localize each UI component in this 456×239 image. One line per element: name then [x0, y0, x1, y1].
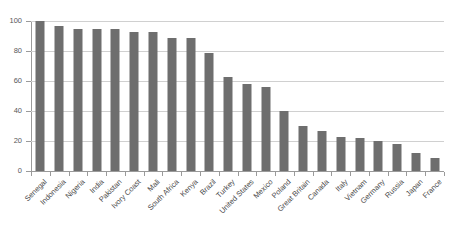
bar — [280, 111, 289, 171]
y-axis-tick-label: 100 — [9, 17, 22, 25]
x-tick — [331, 172, 332, 176]
x-tick — [219, 172, 220, 176]
x-tick — [369, 172, 370, 176]
bar-slot — [50, 21, 69, 171]
bar — [374, 141, 383, 171]
bar-slot — [388, 21, 407, 171]
x-tick — [406, 172, 407, 176]
bar — [55, 26, 64, 172]
bar-slot — [406, 21, 425, 171]
bar — [224, 77, 233, 172]
bar — [430, 158, 439, 172]
bar — [205, 53, 214, 172]
x-tick — [31, 172, 32, 176]
bars-layer — [31, 21, 444, 171]
bar-slot — [275, 21, 294, 171]
x-tick — [350, 172, 351, 176]
bar — [411, 153, 420, 171]
bar-slot — [219, 21, 238, 171]
bar-slot — [125, 21, 144, 171]
bar-slot — [31, 21, 50, 171]
bar-slot — [331, 21, 350, 171]
bar — [336, 137, 345, 172]
bar-slot — [87, 21, 106, 171]
bar-slot — [181, 21, 200, 171]
y-tick-60 — [26, 81, 31, 82]
x-tick — [256, 172, 257, 176]
x-tick — [125, 172, 126, 176]
bar — [167, 38, 176, 172]
bar-slot — [313, 21, 332, 171]
bar — [92, 29, 101, 172]
bar — [130, 32, 139, 172]
bar-slot — [69, 21, 88, 171]
y-axis-tick-label: 0 — [18, 167, 22, 175]
bar-slot — [369, 21, 388, 171]
bar-slot — [162, 21, 181, 171]
y-axis-tick-label: 60 — [14, 77, 22, 85]
bar-slot — [238, 21, 257, 171]
x-axis-category-label: Mexico — [252, 178, 274, 200]
x-axis-category-label: Italy — [334, 178, 349, 193]
bar — [261, 87, 270, 171]
x-axis-category-label: Kenya — [179, 178, 199, 198]
x-tick — [425, 172, 426, 176]
bar — [186, 38, 195, 172]
bar — [111, 29, 120, 172]
bar — [73, 29, 82, 172]
bar — [149, 32, 158, 172]
bar — [36, 21, 45, 171]
x-tick — [181, 172, 182, 176]
x-axis-category-label: France — [421, 178, 443, 200]
x-axis-category-label: Nigeria — [64, 178, 86, 200]
bar-slot — [350, 21, 369, 171]
y-tick-100 — [26, 21, 31, 22]
x-tick — [162, 172, 163, 176]
x-tick — [294, 172, 295, 176]
x-tick — [87, 172, 88, 176]
x-tick — [200, 172, 201, 176]
x-tick — [313, 172, 314, 176]
x-tick — [275, 172, 276, 176]
bar-chart: SenegalIndonesiaNigeriaIndiaPakistanIvor… — [0, 0, 456, 239]
y-tick-20 — [26, 141, 31, 142]
y-axis-tick-label: 40 — [14, 107, 22, 115]
bar-slot — [106, 21, 125, 171]
x-tick — [388, 172, 389, 176]
x-tick — [144, 172, 145, 176]
y-tick-40 — [26, 111, 31, 112]
y-tick-80 — [26, 51, 31, 52]
x-tick — [238, 172, 239, 176]
y-axis-tick-label: 80 — [14, 47, 22, 55]
bar-slot — [425, 21, 444, 171]
y-axis-tick-label: 20 — [14, 137, 22, 145]
x-axis-category-label: Russia — [384, 178, 406, 200]
x-tick — [444, 172, 445, 176]
bar — [393, 144, 402, 171]
x-tick — [69, 172, 70, 176]
bar — [299, 126, 308, 171]
bar-slot — [200, 21, 219, 171]
bar-slot — [144, 21, 163, 171]
bar-slot — [256, 21, 275, 171]
bar-slot — [294, 21, 313, 171]
bar — [317, 131, 326, 172]
x-tick — [50, 172, 51, 176]
x-tick — [106, 172, 107, 176]
bar — [242, 84, 251, 171]
bar — [355, 138, 364, 171]
y-tick-0 — [26, 171, 31, 172]
x-axis-labels: SenegalIndonesiaNigeriaIndiaPakistanIvor… — [31, 178, 444, 239]
